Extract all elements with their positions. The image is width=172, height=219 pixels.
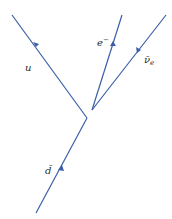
label-antineutrino: ν̄e [144,54,154,67]
label-u: u [25,62,31,73]
u-quark-line [12,15,87,118]
label-d-antiquark: d̄ [45,165,53,176]
antineutrino-line [92,15,166,110]
label-electron: e− [97,36,109,48]
d-antiquark-line [36,118,87,213]
feynman-diagram: u e− ν̄e d̄ [0,0,172,219]
arrow-icon [110,41,116,46]
electron-line [92,15,122,110]
